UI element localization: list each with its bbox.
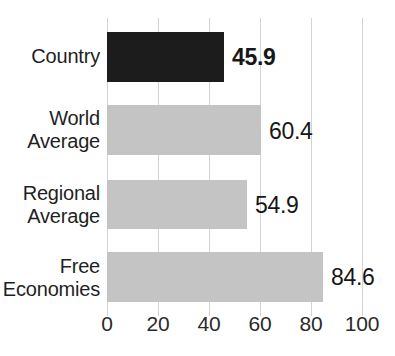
bar-chart: Country 45.9 World Average 60.4 Regional… (0, 0, 395, 356)
value-label-regional-average: 54.9 (255, 192, 299, 219)
bar-world-average (107, 105, 261, 155)
category-label-free-economies: Free Economies (0, 255, 100, 301)
xtick-label-100: 100 (332, 312, 392, 336)
plot-area: Country 45.9 World Average 60.4 Regional… (0, 0, 395, 356)
value-label-free-economies: 84.6 (331, 264, 375, 291)
bar-regional-average (107, 180, 247, 229)
category-label-regional-average: Regional Average (0, 182, 100, 228)
category-label-world-average: World Average (0, 107, 100, 153)
category-label-country: Country (0, 45, 100, 68)
value-label-country: 45.9 (232, 44, 276, 71)
value-label-world-average: 60.4 (269, 118, 313, 145)
bar-free-economies (107, 252, 323, 302)
bar-country (107, 32, 224, 82)
